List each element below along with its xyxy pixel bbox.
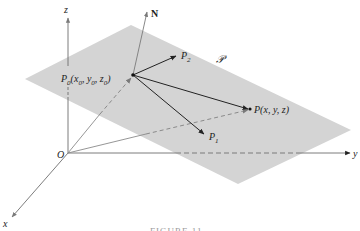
normal-label: N xyxy=(151,8,159,19)
point-p0 xyxy=(131,73,135,77)
origin-label: O xyxy=(57,149,64,160)
x-axis-label: x xyxy=(2,218,8,229)
x-axis xyxy=(12,153,68,217)
vector-o-to-p0 xyxy=(68,114,100,153)
point-p xyxy=(248,107,251,110)
y-axis-label: y xyxy=(352,148,358,159)
point-p-label: P(x, y, z) xyxy=(253,104,290,116)
figure-caption: FIGURE 11 xyxy=(150,226,202,231)
plane-p xyxy=(25,25,351,184)
plane-label: 𝒫 xyxy=(216,53,227,65)
plane-diagram: z y x O N 𝒫 P0(x0, y0, z0) P2 P1 P(x, y,… xyxy=(0,0,360,231)
vector-o-to-p xyxy=(68,134,146,153)
z-axis-label: z xyxy=(63,4,68,15)
